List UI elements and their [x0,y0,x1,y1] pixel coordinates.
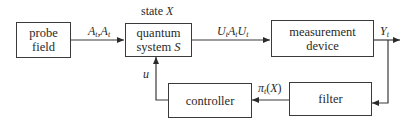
quantum-system-label-line2: system S [136,40,180,54]
arrow-measurement-to-filter [372,40,388,103]
probe-field-label-line1: probe [29,26,57,40]
arrow-controller-to-quantum [156,57,168,100]
quantum-system-label-line1: quantum [136,26,180,40]
controller-label: controller [186,94,235,108]
controller-block: controller [168,83,252,118]
edge-label-control-u: u [143,68,149,80]
measurement-device-block: measurement device [271,20,374,57]
edge-label-probe-quantum: At,At [88,25,110,37]
quantum-system-block: quantum system S [125,23,192,57]
edge-label-output-yt: Yt [380,25,389,37]
edge-label-quantum-measurement: UtAtUt [217,25,248,37]
edge-label-filter-controller: πt(X) [258,82,282,94]
measurement-label-line2: device [289,39,356,53]
state-x-label: state X [141,5,173,17]
probe-field-block: probe field [16,22,71,58]
filter-block: filter [289,82,372,116]
probe-field-label-line2: field [29,40,57,54]
filter-label: filter [318,92,342,106]
measurement-label-line1: measurement [289,25,356,39]
